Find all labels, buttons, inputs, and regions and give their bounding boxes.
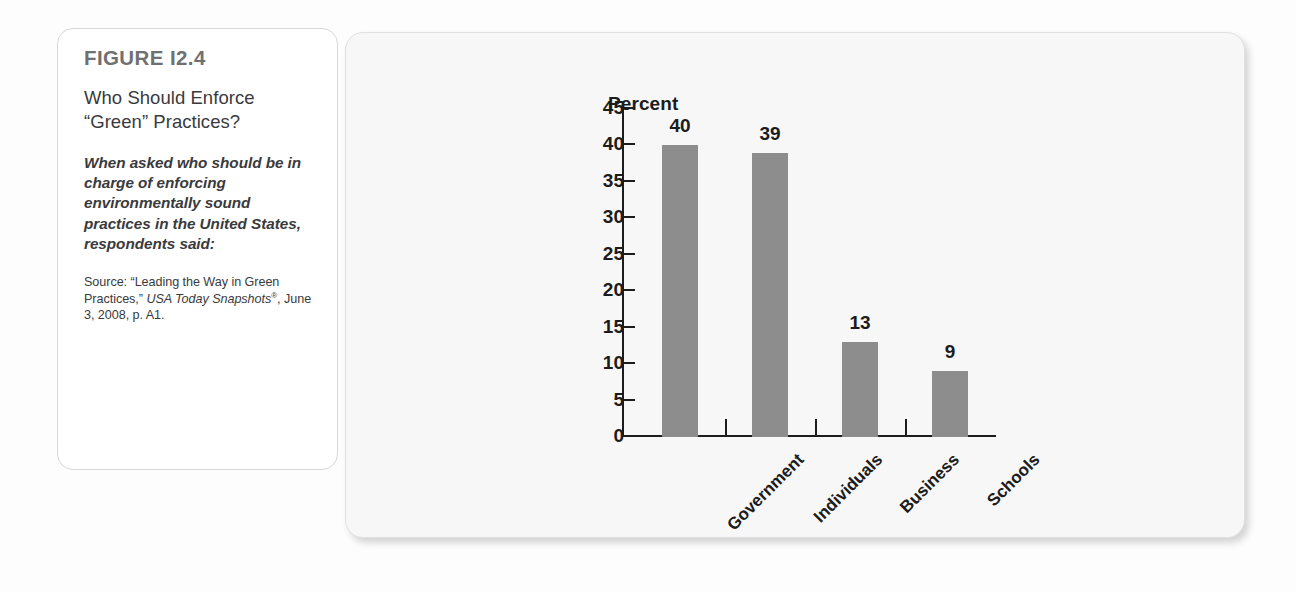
x-tick-label: Schools bbox=[983, 450, 1044, 511]
bar-value-label: 39 bbox=[740, 123, 800, 145]
x-tick-label: Government bbox=[723, 450, 808, 535]
y-tick-label: 35 bbox=[590, 170, 624, 192]
x-tick-label: Individuals bbox=[810, 450, 887, 527]
figure-lead-text: When asked who should be in charge of en… bbox=[84, 153, 313, 255]
y-tick-mark bbox=[624, 435, 635, 437]
y-tick-mark bbox=[624, 399, 635, 401]
bar bbox=[932, 371, 968, 437]
y-tick-label: 5 bbox=[590, 389, 624, 411]
figure-source-citation: Source: “Leading the Way in Green Practi… bbox=[84, 274, 313, 323]
bar-value-label: 9 bbox=[920, 341, 980, 363]
x-tick-label: Business bbox=[896, 450, 964, 518]
y-tick-mark bbox=[624, 216, 635, 218]
page-background: FIGURE I2.4 Who Should Enforce “Green” P… bbox=[0, 0, 1296, 591]
chart-panel: Percent 051015202530354045 4039139 Gover… bbox=[345, 32, 1245, 538]
y-tick-mark bbox=[624, 253, 635, 255]
x-tick-mark bbox=[725, 419, 727, 435]
bar bbox=[662, 145, 698, 437]
figure-title: Who Should Enforce “Green” Practices? bbox=[84, 86, 313, 134]
y-tick-label: 40 bbox=[590, 133, 624, 155]
y-tick-label: 45 bbox=[590, 97, 624, 119]
x-tick-mark bbox=[815, 419, 817, 435]
y-tick-mark bbox=[624, 143, 635, 145]
x-tick-mark bbox=[905, 419, 907, 435]
figure-caption-card: FIGURE I2.4 Who Should Enforce “Green” P… bbox=[57, 28, 338, 470]
y-tick-mark bbox=[624, 326, 635, 328]
bar bbox=[842, 342, 878, 437]
source-publication: USA Today Snapshots bbox=[146, 292, 271, 306]
y-tick-label: 10 bbox=[590, 352, 624, 374]
y-tick-label: 25 bbox=[590, 243, 624, 265]
y-tick-mark bbox=[624, 107, 635, 109]
bar-value-label: 13 bbox=[830, 312, 890, 334]
bar bbox=[752, 153, 788, 437]
y-tick-label: 20 bbox=[590, 279, 624, 301]
y-tick-mark bbox=[624, 362, 635, 364]
y-tick-label: 0 bbox=[590, 425, 624, 447]
y-axis-line bbox=[622, 107, 624, 437]
figure-number: FIGURE I2.4 bbox=[84, 47, 313, 70]
bar-value-label: 40 bbox=[650, 115, 710, 137]
bar-chart: Percent 051015202530354045 4039139 Gover… bbox=[346, 33, 1245, 538]
y-tick-label: 30 bbox=[590, 206, 624, 228]
y-tick-mark bbox=[624, 180, 635, 182]
y-tick-mark bbox=[624, 289, 635, 291]
y-tick-label: 15 bbox=[590, 316, 624, 338]
